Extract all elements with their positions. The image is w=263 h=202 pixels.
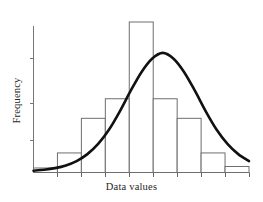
histogram-figure: Frequency Data values [0, 0, 263, 202]
x-axis-ticks [58, 173, 250, 178]
histogram-bar [105, 99, 129, 173]
histogram-bars [34, 22, 250, 173]
x-axis-label: Data values [0, 181, 263, 192]
histogram-bar [201, 153, 225, 173]
y-axis-ticks [30, 59, 34, 141]
plot-area [0, 0, 263, 202]
histogram-bar [177, 118, 201, 172]
histogram-bar [57, 153, 81, 173]
histogram-bar [129, 22, 153, 173]
histogram-bar [153, 99, 177, 173]
histogram-bar [225, 166, 249, 172]
histogram-bar [81, 118, 105, 172]
y-axis-label: Frequency [11, 59, 22, 143]
